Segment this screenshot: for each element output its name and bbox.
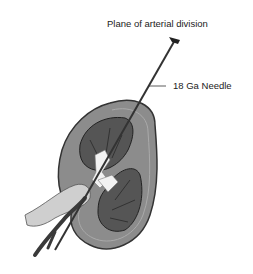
needle-hub-icon bbox=[169, 37, 180, 44]
needle-label: 18 Ga Needle bbox=[173, 80, 232, 91]
plane-label: Plane of arterial division bbox=[107, 18, 208, 29]
kidney-needle-diagram: Plane of arterial division 18 Ga Needle bbox=[0, 0, 253, 274]
kidney-illustration bbox=[0, 0, 253, 274]
